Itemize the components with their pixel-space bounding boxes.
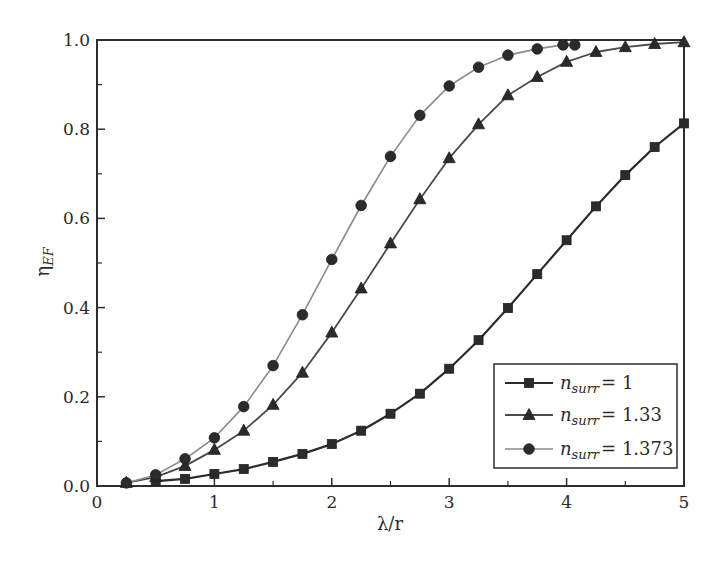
x-tick-label: 0 [92,492,103,512]
x-tick-label: 1 [209,492,220,512]
circle-marker [385,151,396,162]
square-marker [357,426,366,435]
square-marker [386,409,395,418]
square-marker [591,202,600,211]
circle-marker [532,44,543,55]
y-axis: 0.00.20.40.60.81.0 [63,30,105,496]
square-marker [650,143,659,152]
triangle-marker [208,443,220,454]
circle-marker [121,478,132,489]
triangle-marker [502,89,514,100]
square-marker [562,236,571,245]
y-tick-label: 0.0 [63,476,90,496]
circle-marker [150,470,161,481]
circle-marker [570,40,581,51]
square-marker [445,364,454,373]
circle-marker [356,200,367,211]
square-marker [210,469,219,478]
y-tick-label: 1.0 [63,30,90,50]
square-marker [533,270,542,279]
square-marker [503,304,512,313]
circle-marker [180,453,191,464]
square-marker [621,171,630,180]
x-tick-label: 3 [444,492,455,512]
legend-var: n [560,404,572,425]
legend-var: n [560,438,572,459]
circle-marker [268,360,279,371]
circle-marker [327,254,338,265]
square-marker [474,336,483,345]
circle-marker [444,81,455,92]
circle-marker [524,444,535,455]
circle-marker [473,62,484,73]
y-tick-label: 0.2 [63,387,90,407]
circle-marker [209,433,220,444]
square-marker [415,389,424,398]
circle-marker [297,309,308,320]
circle-marker [415,110,426,121]
line-chart: 012345 0.00.20.40.60.81.0 λ/r ηEF nsurr=… [0,0,722,562]
y-axis-title-main: η [32,266,53,277]
y-tick-label: 0.8 [63,119,90,139]
circle-marker [238,401,249,412]
x-tick-label: 5 [679,492,690,512]
y-axis-title-sub: EF [41,246,56,266]
square-marker [239,465,248,474]
legend-sub: surr [572,413,600,428]
square-marker [327,440,336,449]
legend-value: = 1 [601,372,633,393]
square-marker [269,457,278,466]
legend-sub: surr [572,447,600,462]
circle-marker [503,50,514,61]
legend-value: = 1.373 [601,438,673,459]
legend: nsurr= 1nsurr= 1.33nsurr= 1.373 [494,364,677,468]
legend-value: = 1.33 [601,404,662,425]
y-tick-label: 0.4 [63,298,90,318]
square-marker [525,379,534,388]
legend-var: n [560,372,572,393]
square-marker [298,449,307,458]
y-axis-title: ηEF [32,246,56,276]
triangle-marker [678,36,690,47]
circle-marker [558,40,569,51]
x-tick-label: 4 [561,492,572,512]
square-marker [680,119,689,128]
x-axis-title: λ/r [377,513,403,534]
square-marker [181,474,190,483]
x-tick-label: 2 [326,492,337,512]
triangle-marker [531,71,543,82]
y-tick-label: 0.6 [63,208,90,228]
legend-sub: surr [572,381,600,396]
